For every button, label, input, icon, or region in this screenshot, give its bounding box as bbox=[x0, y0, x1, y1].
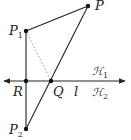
point-p bbox=[86, 4, 90, 8]
label-half-plane-h2: ℋ2 bbox=[92, 86, 108, 101]
label-p2: P2 bbox=[8, 122, 23, 139]
label-half-plane-h1: ℋ1 bbox=[92, 65, 108, 80]
label-line-l: l bbox=[74, 84, 78, 99]
segment-p1-p bbox=[26, 6, 88, 31]
point-p1 bbox=[24, 29, 28, 33]
point-q bbox=[49, 79, 53, 83]
reflection-diagram: P P1 R Q l ℋ1 ℋ2 P2 bbox=[0, 0, 131, 140]
label-p1: P1 bbox=[8, 23, 23, 40]
segment-p-p2 bbox=[26, 6, 88, 129]
label-q: Q bbox=[53, 84, 64, 99]
label-p: P bbox=[94, 0, 104, 13]
point-r bbox=[24, 79, 28, 83]
point-p2 bbox=[24, 127, 28, 131]
dotted-segment-p1-q bbox=[26, 31, 51, 81]
label-r: R bbox=[12, 84, 23, 99]
